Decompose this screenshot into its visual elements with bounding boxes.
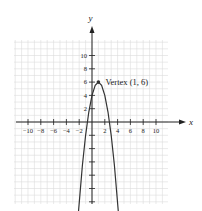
x-tick-label: −10 xyxy=(23,127,33,134)
x-tick-label: 6 xyxy=(129,127,133,134)
vertex-label: Vertex (1, 6) xyxy=(105,77,148,87)
x-axis-arrow-icon xyxy=(179,120,186,125)
x-tick-label: −4 xyxy=(63,127,71,134)
y-axis-label: y xyxy=(88,13,93,23)
y-tick-label: 2 xyxy=(84,105,87,112)
x-tick-label: −6 xyxy=(50,127,58,134)
x-tick-label: −2 xyxy=(76,127,83,134)
x-tick-label: 4 xyxy=(116,127,120,134)
x-tick-label: −8 xyxy=(37,127,44,134)
y-tick-label: 10 xyxy=(81,52,88,59)
x-tick-label: 10 xyxy=(153,127,160,134)
y-tick-label: 8 xyxy=(84,65,87,72)
vertex-point xyxy=(97,80,101,84)
x-tick-label: 2 xyxy=(103,127,106,134)
x-axis-label: x xyxy=(188,117,193,127)
y-axis-arrow-icon xyxy=(90,26,95,33)
parabola-chart: x y −10−8−6−4−2246810246810 Vertex (1, 6… xyxy=(0,0,202,211)
ticks: −10−8−6−4−2246810246810 xyxy=(23,52,159,202)
x-tick-label: 8 xyxy=(142,127,145,134)
